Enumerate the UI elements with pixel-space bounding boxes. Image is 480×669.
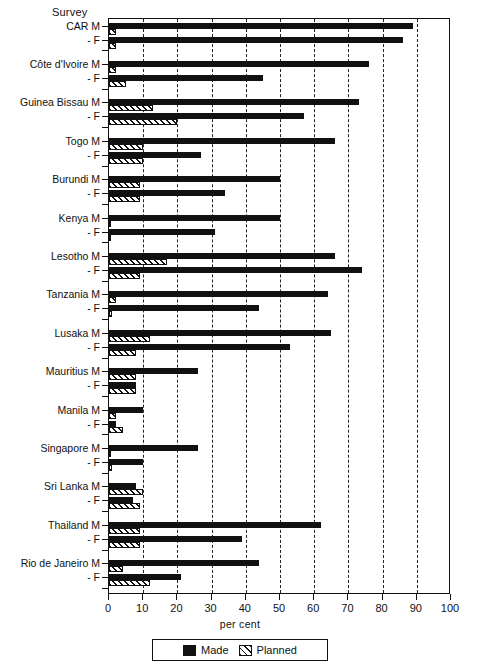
x-tick-mark — [211, 594, 212, 600]
bar-row — [109, 99, 451, 113]
bar-planned — [109, 336, 150, 342]
bar-row — [109, 344, 451, 358]
y-tick-mark — [102, 486, 108, 487]
legend-label-planned: Planned — [257, 644, 297, 656]
bar-row — [109, 152, 451, 166]
bar-planned — [109, 273, 140, 279]
y-tick-label: - F — [0, 227, 100, 237]
bar-row — [109, 497, 451, 511]
bar-row — [109, 291, 451, 305]
bar-planned — [109, 221, 111, 227]
y-tick-mark — [102, 256, 108, 257]
bar-row — [109, 229, 451, 243]
y-tick-mark — [102, 448, 108, 449]
legend-item-planned: Planned — [239, 644, 297, 656]
x-tick-mark — [279, 594, 280, 600]
y-tick-mark — [102, 193, 108, 194]
y-group-separator-tick — [102, 588, 108, 589]
y-tick-mark — [102, 333, 108, 334]
y-tick-label: Mauritius M — [0, 366, 100, 376]
bar-row — [109, 560, 451, 574]
y-tick-label: - F — [0, 73, 100, 83]
y-tick-label: Rio de Janeiro M — [0, 558, 100, 568]
bar-planned — [109, 489, 143, 495]
y-tick-label: - F — [0, 303, 100, 313]
y-tick-mark — [102, 577, 108, 578]
bar-row — [109, 330, 451, 344]
bar-planned — [109, 427, 123, 433]
bar-row — [109, 368, 451, 382]
y-tick-mark — [102, 116, 108, 117]
y-tick-mark — [102, 462, 108, 463]
y-group-separator-tick — [102, 50, 108, 51]
y-tick-mark — [102, 539, 108, 540]
y-tick-mark — [102, 179, 108, 180]
bar-planned — [109, 503, 140, 509]
y-group-separator-tick — [102, 242, 108, 243]
survey-bar-chart: Survey CAR M- FCôte d'Ivoire M- FGuinea … — [0, 0, 480, 669]
bar-planned — [109, 43, 116, 49]
bar-planned — [109, 182, 140, 188]
legend-label-made: Made — [201, 644, 229, 656]
y-tick-label: Burundi M — [0, 174, 100, 184]
y-tick-mark — [102, 141, 108, 142]
y-tick-mark — [102, 563, 108, 564]
plot-area — [108, 18, 450, 594]
bar-planned — [109, 413, 116, 419]
y-tick-mark — [102, 155, 108, 156]
bar-row — [109, 37, 451, 51]
bar-row — [109, 382, 451, 396]
page-title: Survey — [52, 6, 87, 18]
bar-row — [109, 267, 451, 281]
bar-row — [109, 138, 451, 152]
y-group-separator-tick — [102, 396, 108, 397]
bar-row — [109, 75, 451, 89]
bar-planned — [109, 542, 140, 548]
bar-row — [109, 253, 451, 267]
bar-planned — [109, 196, 140, 202]
bar-planned — [109, 158, 143, 164]
bar-planned — [109, 451, 111, 457]
y-tick-label: - F — [0, 495, 100, 505]
bar-made — [109, 37, 403, 43]
bar-row — [109, 113, 451, 127]
y-group-separator-tick — [102, 473, 108, 474]
y-tick-label: - F — [0, 457, 100, 467]
bar-planned — [109, 311, 112, 317]
bar-made — [109, 75, 263, 81]
y-group-separator-tick — [102, 281, 108, 282]
y-tick-mark — [102, 371, 108, 372]
bar-planned — [109, 259, 167, 265]
x-tick-mark — [142, 594, 143, 600]
y-tick-label: - F — [0, 342, 100, 352]
bar-row — [109, 215, 451, 229]
y-tick-label: CAR M — [0, 21, 100, 31]
y-tick-label: Sri Lanka M — [0, 481, 100, 491]
bar-made — [109, 305, 259, 311]
bar-planned — [109, 580, 150, 586]
bar-made — [109, 229, 215, 235]
bar-planned — [109, 119, 177, 125]
bar-made — [109, 522, 321, 528]
bar-made — [109, 61, 369, 67]
bar-planned — [109, 105, 153, 111]
bar-made — [109, 291, 328, 297]
x-tick-mark — [382, 594, 383, 600]
bar-made — [109, 459, 143, 465]
y-tick-label: - F — [0, 572, 100, 582]
y-tick-mark — [102, 102, 108, 103]
bar-planned — [109, 235, 111, 241]
bar-row — [109, 61, 451, 75]
bar-row — [109, 176, 451, 190]
bar-planned — [109, 388, 136, 394]
y-tick-label: - F — [0, 150, 100, 160]
legend-item-made: Made — [183, 644, 229, 656]
bar-planned — [109, 566, 123, 572]
bar-row — [109, 574, 451, 588]
y-tick-mark — [102, 347, 108, 348]
x-tick-mark — [347, 594, 348, 600]
bar-row — [109, 445, 451, 459]
y-group-separator-tick — [102, 319, 108, 320]
x-tick-mark — [108, 594, 109, 600]
bar-planned — [109, 67, 116, 73]
